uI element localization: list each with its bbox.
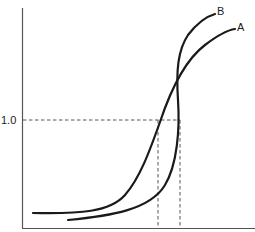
curve-a-label: A	[237, 21, 245, 33]
chart: 1.0 B A	[0, 0, 255, 232]
y-tick-label: 1.0	[1, 114, 16, 126]
curve-b-label: B	[217, 5, 224, 17]
curve-b	[68, 14, 215, 220]
curve-a	[33, 29, 235, 213]
